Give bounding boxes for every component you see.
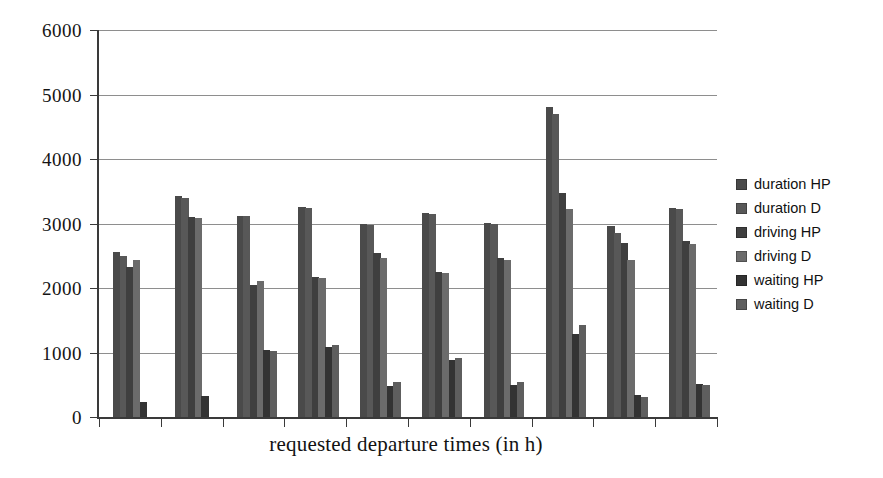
legend-item[interactable]: waiting HP xyxy=(736,268,880,292)
bar-series-container xyxy=(99,30,717,417)
y-axis-tick-label: 1000 xyxy=(8,343,82,362)
legend-swatch-icon xyxy=(736,275,747,286)
legend-swatch-icon xyxy=(736,299,747,310)
legend-label: waiting D xyxy=(754,297,814,312)
x-axis-tick-mark xyxy=(346,417,347,427)
y-axis-tick-mark xyxy=(90,224,99,225)
bar xyxy=(517,382,524,417)
x-axis-tick-mark xyxy=(470,417,471,427)
bar xyxy=(702,385,709,417)
legend-item[interactable]: driving D xyxy=(736,244,880,268)
y-axis-tick-mark xyxy=(90,417,99,418)
y-axis-tick-label: 4000 xyxy=(8,150,82,169)
legend-item[interactable]: driving HP xyxy=(736,220,880,244)
y-axis-tick-mark xyxy=(90,30,99,31)
bar xyxy=(579,325,586,417)
bar xyxy=(627,260,634,417)
legend-label: duration HP xyxy=(754,177,831,192)
x-axis-tick-mark xyxy=(593,417,594,427)
bar xyxy=(201,396,208,417)
y-axis-tick-mark xyxy=(90,95,99,96)
legend-item[interactable]: waiting D xyxy=(736,292,880,316)
bar xyxy=(133,260,140,417)
x-axis-tick-mark xyxy=(655,417,656,427)
x-axis-title: requested departure times (in h) xyxy=(97,432,715,457)
bar xyxy=(393,382,400,417)
plot-area xyxy=(97,30,717,419)
x-axis-tick-mark xyxy=(223,417,224,427)
legend-label: driving HP xyxy=(754,225,821,240)
x-axis-tick-mark xyxy=(99,417,100,427)
legend-swatch-icon xyxy=(736,203,747,214)
y-axis-tick-mark xyxy=(90,159,99,160)
bar xyxy=(195,218,202,417)
y-axis-tick-label: 3000 xyxy=(8,214,82,233)
y-axis-tick-label: 2000 xyxy=(8,279,82,298)
y-axis-tick-labels: 6000500040003000200010000 xyxy=(8,0,82,478)
legend-item[interactable]: duration HP xyxy=(736,172,880,196)
x-axis-tick-mark xyxy=(408,417,409,427)
bar xyxy=(140,402,147,417)
bar xyxy=(332,345,339,417)
legend-swatch-icon xyxy=(736,179,747,190)
x-axis-tick-mark xyxy=(161,417,162,427)
y-axis-tick-label: 0 xyxy=(8,408,82,427)
y-axis-tick-mark xyxy=(90,288,99,289)
x-axis-tick-mark xyxy=(284,417,285,427)
bar xyxy=(455,358,462,417)
chart-legend: duration HPduration Ddriving HPdriving D… xyxy=(736,172,880,316)
legend-label: duration D xyxy=(754,201,821,216)
legend-swatch-icon xyxy=(736,251,747,262)
legend-swatch-icon xyxy=(736,227,747,238)
y-axis-tick-label: 5000 xyxy=(8,85,82,104)
legend-label: driving D xyxy=(754,249,811,264)
bar xyxy=(641,397,648,417)
bar xyxy=(270,351,277,417)
x-axis-tick-mark xyxy=(717,417,718,427)
legend-item[interactable]: duration D xyxy=(736,196,880,220)
legend-label: waiting HP xyxy=(754,273,823,288)
bar-chart-figure: 6000500040003000200010000 requested depa… xyxy=(0,0,883,478)
y-axis-tick-mark xyxy=(90,353,99,354)
x-axis-tick-mark xyxy=(532,417,533,427)
y-axis-tick-label: 6000 xyxy=(8,21,82,40)
